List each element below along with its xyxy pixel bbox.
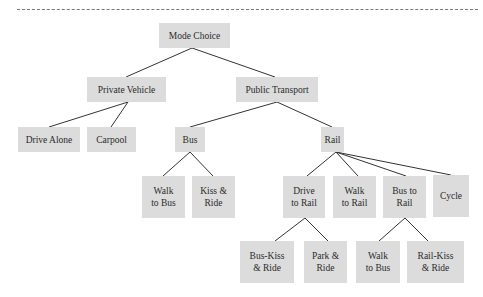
node-bus: Bus bbox=[175, 127, 205, 152]
node-cycle: Cycle bbox=[433, 175, 469, 217]
edge-mode-choice-public-transport bbox=[192, 48, 275, 77]
node-label-line-1: Kiss & bbox=[200, 185, 227, 197]
node-public-transport: Public Transport bbox=[236, 77, 318, 102]
node-label-line-1: Park & bbox=[312, 250, 339, 262]
node-label-line-2: to Rail bbox=[291, 197, 317, 209]
node-walk-to-bus: Walk to Bus bbox=[142, 176, 185, 218]
node-walk-to-rail: Walk to Rail bbox=[333, 176, 376, 218]
node-bus-kiss-and-ride: Bus-Kiss & Ride bbox=[240, 241, 294, 283]
node-label-line-1: Walk bbox=[151, 185, 176, 197]
node-label: Public Transport bbox=[245, 84, 308, 96]
node-label: Rail bbox=[325, 134, 341, 146]
edge-bus-walk-to-bus bbox=[163, 152, 190, 176]
node-rail-kiss-and-ride: Rail-Kiss & Ride bbox=[407, 241, 464, 283]
edge-private-vehicle-drive-alone bbox=[49, 102, 128, 127]
edge-public-transport-bus bbox=[190, 102, 277, 127]
node-private-vehicle: Private Vehicle bbox=[87, 77, 166, 102]
edge-bus-to-rail-rail-kiss-and-ride bbox=[405, 218, 428, 241]
node-drive-to-rail: Drive to Rail bbox=[283, 176, 325, 218]
node-label-line-1: Bus-Kiss bbox=[250, 250, 285, 262]
node-label: Bus bbox=[183, 134, 198, 146]
edge-public-transport-rail bbox=[277, 102, 332, 127]
node-label-line-2: to Bus bbox=[366, 262, 391, 274]
node-label: Private Vehicle bbox=[98, 84, 156, 96]
node-label-line-2: Ride bbox=[312, 262, 339, 274]
node-label: Cycle bbox=[440, 190, 462, 202]
node-drive-alone: Drive Alone bbox=[18, 127, 80, 152]
edge-mode-choice-private-vehicle bbox=[126, 48, 192, 77]
node-label: Carpool bbox=[96, 134, 127, 146]
node-mode-choice: Mode Choice bbox=[159, 23, 230, 48]
node-park-and-ride: Park & Ride bbox=[304, 241, 347, 283]
edge-drive-to-rail-park-and-ride bbox=[305, 218, 328, 241]
node-label-line-1: Drive bbox=[291, 185, 317, 197]
edge-rail-drive-to-rail bbox=[307, 152, 336, 176]
node-label-line-1: Rail-Kiss bbox=[418, 250, 454, 262]
node-label-line-2: & Ride bbox=[250, 262, 285, 274]
node-label-line-2: Rail bbox=[392, 197, 417, 209]
node-carpool: Carpool bbox=[87, 127, 136, 152]
edge-bus-to-rail-walk-to-bus bbox=[379, 218, 405, 241]
node-rail: Rail bbox=[321, 127, 344, 152]
node-walk-to-bus-2: Walk to Bus bbox=[356, 241, 400, 283]
edge-bus-kiss-and-ride bbox=[190, 152, 213, 176]
node-kiss-and-ride: Kiss & Ride bbox=[192, 176, 235, 218]
node-label-line-1: Walk bbox=[342, 185, 368, 197]
node-bus-to-rail: Bus to Rail bbox=[383, 176, 426, 218]
node-label-line-1: Walk bbox=[366, 250, 391, 262]
node-label-line-2: & Ride bbox=[418, 262, 454, 274]
node-label-line-1: Bus to bbox=[392, 185, 417, 197]
edge-drive-to-rail-bus-kiss-and-ride bbox=[275, 218, 305, 241]
node-label-line-2: to Rail bbox=[342, 197, 368, 209]
node-label-line-2: to Bus bbox=[151, 197, 176, 209]
node-label: Mode Choice bbox=[169, 30, 220, 42]
node-label-line-2: Ride bbox=[200, 197, 227, 209]
edge-private-vehicle-carpool bbox=[111, 102, 128, 127]
node-label: Drive Alone bbox=[26, 134, 73, 146]
